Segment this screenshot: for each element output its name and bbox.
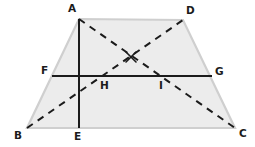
vertex-label-D: D [186,4,195,16]
vertex-label-E: E [74,130,81,142]
vertex-label-F: F [41,64,48,76]
geometry-canvas: A D F G H I B E C [0,0,255,147]
geometry-figure: A D F G H I B E C [0,0,255,147]
vertex-label-G: G [215,65,224,77]
vertex-label-H: H [100,79,109,91]
vertex-label-B: B [14,129,22,141]
vertex-label-C: C [239,127,247,139]
vertex-label-I: I [159,79,163,91]
vertex-label-A: A [68,2,77,14]
